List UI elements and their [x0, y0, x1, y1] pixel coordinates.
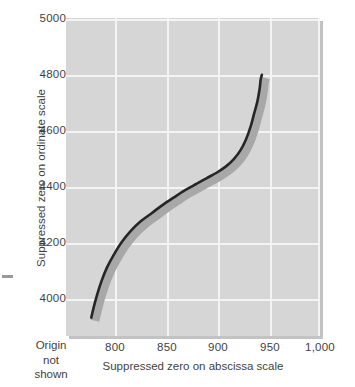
origin-not-shown-note: Origin not shown: [16, 338, 86, 382]
x-axis-title: Suppressed zero on abscissa scale: [66, 360, 320, 372]
curve-shadow-band: [95, 78, 266, 321]
origin-note-line-2: not: [16, 353, 86, 368]
x-tick-label-1000: 1,000: [290, 341, 350, 353]
origin-note-line-3: shown: [16, 367, 86, 382]
plot-area: [66, 18, 320, 336]
data-curve: [66, 18, 320, 336]
chart-figure: 5000 4800 4600 4400 4200 4000 800 850 90…: [0, 0, 355, 387]
left-edge-tick-mark: [2, 275, 13, 278]
origin-note-line-1: Origin: [16, 338, 86, 353]
x-tick-label-800: 800: [85, 341, 145, 353]
y-tick-label-5000: 5000: [6, 13, 66, 25]
y-axis-title: Suppressed zero on ordinate scale: [35, 58, 47, 298]
x-tick-label-900: 900: [188, 341, 248, 353]
curve-line: [91, 75, 262, 318]
